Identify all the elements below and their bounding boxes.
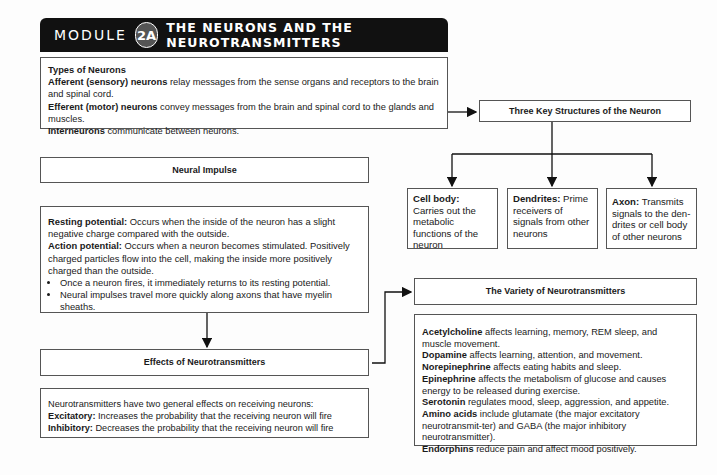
effects-box: Neurotransmitters have two general effec… <box>40 388 369 438</box>
resting-potential-item: Resting potential: Occurs when the insid… <box>48 216 361 240</box>
effects-intro: Neurotransmitters have two general effec… <box>48 398 361 410</box>
axon-box: Axon: Transmits signals to the den-drite… <box>606 188 697 249</box>
afferent-item: Afferent (sensory) neurons relay message… <box>48 76 440 100</box>
interneurons-item: Interneurons communicate between neurons… <box>48 125 440 137</box>
types-heading: Types of Neurons <box>48 65 126 75</box>
excitatory-item: Excitatory: Increases the probability th… <box>48 410 361 422</box>
action-potential-item: Action potential: Occurs when a neuron b… <box>48 240 361 277</box>
epinephrine-item: Epinephrine affects the metabolism of gl… <box>422 374 689 397</box>
neural-impulse-box: Resting potential: Occurs when the insid… <box>40 206 369 313</box>
bullet-item: Neural impulses travel more quickly alon… <box>60 289 361 313</box>
variety-title: The Variety of Neurotransmitters <box>414 278 697 305</box>
variety-box: Acetylcholine affects learning, memory, … <box>414 314 697 446</box>
effects-title: Effects of Neurotransmitters <box>40 349 369 376</box>
efferent-item: Efferent (motor) neurons convey messages… <box>48 101 440 125</box>
module-number-badge: 2A <box>135 22 158 48</box>
acetylcholine-item: Acetylcholine affects learning, memory, … <box>422 327 689 350</box>
three-key-structures-title: Three Key Structures of the Neuron <box>479 100 691 122</box>
inhibitory-item: Inhibitory: Decreases the probability th… <box>48 422 361 434</box>
norepinephrine-item: Norepinephrine affects eating habits and… <box>422 362 689 374</box>
neural-impulse-title: Neural Impulse <box>40 157 369 183</box>
module-title: THE NEURONS AND THE NEUROTRANSMITTERS <box>166 20 448 50</box>
amino-acids-item: Amino acids include glutamate (the major… <box>422 409 689 444</box>
module-header: MODULE 2A THE NEURONS AND THE NEUROTRANS… <box>40 18 448 52</box>
types-of-neurons-box: Types of Neurons Afferent (sensory) neur… <box>40 57 448 129</box>
serotonin-item: Serotonin regulates mood, sleep, aggress… <box>422 397 689 409</box>
dendrites-box: Dendrites: Prime receivers of signals fr… <box>507 188 598 249</box>
endorphins-item: Endorphins reduce pain and affect mood p… <box>422 444 689 456</box>
bullet-item: Once a neuron fires, it immediately retu… <box>60 277 361 289</box>
module-label: MODULE <box>54 27 127 43</box>
cell-body-box: Cell body: Carries out the metabolic fun… <box>407 188 498 249</box>
dopamine-item: Dopamine affects learning, attention, an… <box>422 350 689 362</box>
